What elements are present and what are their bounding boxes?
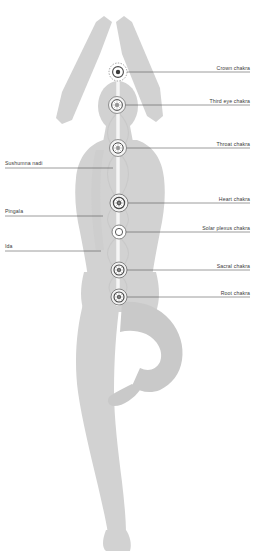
label-ida: Ida <box>5 243 13 249</box>
root-petals <box>114 292 124 302</box>
label-pingala: Pingala <box>5 208 23 214</box>
label-heart-chakra: Heart chakra <box>219 196 250 202</box>
heart-petals <box>113 197 124 208</box>
chakra-throat <box>110 140 127 157</box>
crown-core <box>116 70 120 74</box>
chakra-solar-plexus <box>112 225 126 239</box>
label-sushumna-nadi: Sushumna nadi <box>5 160 43 166</box>
chakra-heart <box>110 194 128 212</box>
third-eye-petals <box>112 100 123 111</box>
label-root-chakra: Root chakra <box>221 290 250 296</box>
solar-plexus-inner-ring <box>115 228 122 235</box>
label-crown-chakra: Crown chakra <box>217 65 250 71</box>
throat-petals <box>113 143 123 153</box>
label-third-eye-chakra: Third eye chakra <box>209 98 250 104</box>
sacral-petals <box>114 265 124 275</box>
foot <box>103 530 131 551</box>
chakra-third-eye <box>109 97 126 114</box>
label-throat-chakra: Throat chakra <box>216 141 250 147</box>
label-sacral-chakra: Sacral chakra <box>217 263 250 269</box>
chakra-sacral <box>111 262 127 278</box>
chakra-diagram: Crown chakra Third eye chakra Throat cha… <box>0 0 258 552</box>
chakra-crown <box>109 63 127 81</box>
label-solar-plexus-chakra: Solar plexus chakra <box>202 225 250 231</box>
chakra-root <box>111 289 127 305</box>
